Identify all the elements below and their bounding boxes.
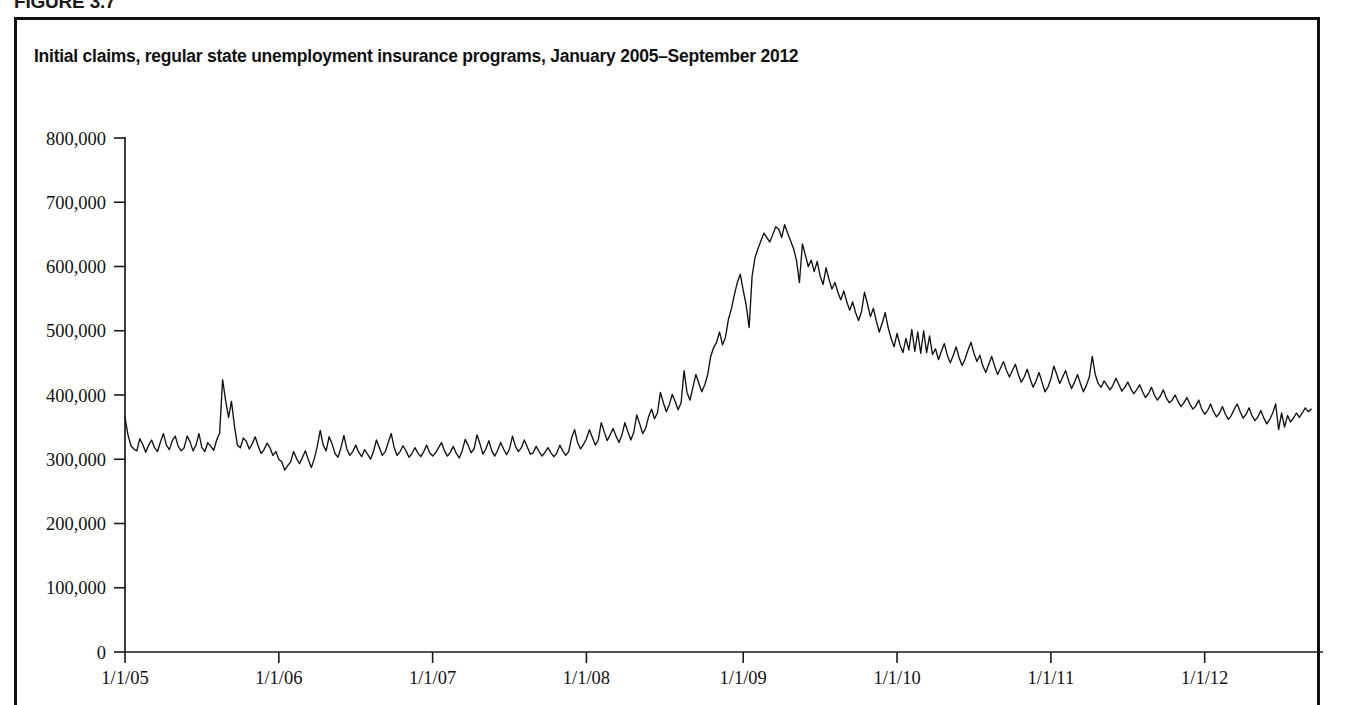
data-series-group xyxy=(125,225,1311,470)
x-axis: 1/1/051/1/061/1/071/1/081/1/091/1/101/1/… xyxy=(101,652,1323,688)
y-axis-tick-label: 800,000 xyxy=(46,129,106,149)
x-axis-tick-label: 1/1/11 xyxy=(1028,668,1075,688)
y-axis-tick-label: 500,000 xyxy=(46,321,106,341)
x-axis-tick-label: 1/1/05 xyxy=(101,668,148,688)
figure-number-label: FIGURE 3.7 xyxy=(14,0,115,13)
x-axis-tick-label: 1/1/07 xyxy=(409,668,456,688)
y-axis-tick-label: 600,000 xyxy=(46,257,106,277)
figure-frame: Initial claims, regular state unemployme… xyxy=(14,17,1320,705)
x-axis-tick-label: 1/1/10 xyxy=(873,668,920,688)
y-axis: 0100,000200,000300,000400,000500,000600,… xyxy=(46,129,125,663)
y-axis-tick-label: 300,000 xyxy=(46,450,106,470)
y-axis-tick-label: 100,000 xyxy=(46,578,106,598)
x-axis-tick-label: 1/1/06 xyxy=(255,668,302,688)
y-axis-tick-label: 200,000 xyxy=(46,514,106,534)
x-axis-tick-label: 1/1/08 xyxy=(563,668,610,688)
data-line-initial-claims xyxy=(125,225,1311,470)
line-chart-plot: 0100,000200,000300,000400,000500,000600,… xyxy=(17,20,1323,705)
x-axis-tick-label: 1/1/12 xyxy=(1181,668,1228,688)
x-axis-tick-label: 1/1/09 xyxy=(720,668,767,688)
y-axis-tick-label: 700,000 xyxy=(46,193,106,213)
y-axis-tick-label: 0 xyxy=(97,643,106,663)
y-axis-tick-label: 400,000 xyxy=(46,386,106,406)
